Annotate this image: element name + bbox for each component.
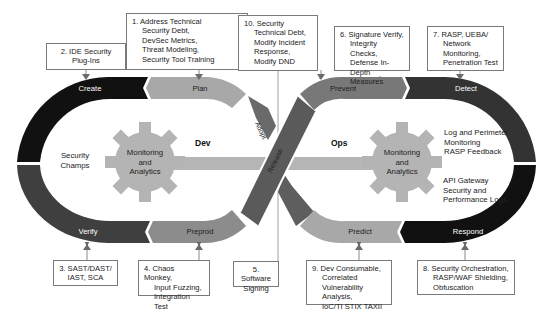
callout-6-line: Integrity Checks, (340, 39, 404, 58)
callout-10-heading: 10. Security (244, 19, 312, 28)
gear-right-line: Monitoring (374, 148, 430, 158)
api-gateway-line: API Gateway (443, 176, 543, 186)
stage-respond-label: Respond (446, 227, 490, 236)
gear-left-line: Analytics (117, 167, 173, 177)
callout-10: 10. Security Technical Debt, Modify Inci… (238, 15, 318, 71)
callout-5: 5. Software Signing (233, 261, 279, 287)
callout-8-line: RASP/WAF Shielding, (423, 273, 509, 282)
callout-1-line: Threat Modeling, (132, 45, 242, 54)
log-perimeter-line: Monitoring (444, 138, 544, 148)
callout-1-line: Security Tool Training (132, 55, 242, 64)
api-gateway-line: Security and (443, 186, 543, 196)
callout-9-heading: 9. Dev Consumable, (312, 264, 386, 273)
gear-left-line: Monitoring (117, 148, 173, 158)
dev-loop-label: Dev (195, 138, 211, 148)
callout-3: 3. SAST/DAST/ IAST, SCA (53, 260, 118, 286)
gear-right-text: Monitoring and Analytics (374, 148, 430, 177)
callout-7: 7. RASP, UEBA/ Network Monitoring, Penet… (427, 26, 504, 71)
callout-4-heading: 4. Chaos Monkey, (144, 264, 204, 283)
stage-preprod-label: Preprod (180, 227, 220, 236)
callout-1: 1. Address Technical Security Debt, DevS… (126, 13, 248, 70)
callout-2-line: Plug-Ins (52, 56, 120, 65)
stage-plan-label: Plan (180, 84, 220, 93)
gear-right-line: and (374, 158, 430, 168)
callout-8-line: Obfuscation (423, 283, 509, 292)
callout-8-heading: 8. Security Orchestration, (423, 264, 509, 273)
log-perimeter-text: Log and Perimeter Monitoring RASP Feedba… (444, 128, 544, 157)
stage-predict-label: Predict (335, 227, 385, 236)
callout-2: 2. IDE Security Plug-Ins (46, 43, 126, 70)
callout-6-heading: 6. Signature Verify, (340, 30, 404, 39)
stage-verify-label: Verify (68, 227, 108, 236)
callout-1-line: Security Debt, (132, 26, 242, 35)
callout-4: 4. Chaos Monkey, Input Fuzzing, Integrat… (138, 260, 210, 296)
callout-9-line: Vulnerability Analysis, (312, 283, 386, 302)
api-gateway-line: Performance Logs (443, 195, 543, 205)
callout-9-line: Correlated (312, 273, 386, 282)
callout-7-line: Network (433, 39, 498, 48)
ops-loop-label: Ops (331, 138, 348, 148)
callout-3-heading: 3. SAST/DAST/ (59, 264, 112, 273)
api-gateway-text: API Gateway Security and Performance Log… (443, 176, 543, 205)
stage-detect-label: Detect (444, 84, 488, 93)
callout-5-heading: 5. Software (239, 265, 273, 284)
stage-prevent-label: Prevent (318, 84, 368, 93)
callout-10-line: Modify DND (244, 57, 312, 66)
gear-left-line: and (117, 158, 173, 168)
callout-7-heading: 7. RASP, UEBA/ (433, 30, 498, 39)
callout-10-line: Technical Debt, (244, 28, 312, 37)
callout-1-line: DevSec Metrics, (132, 36, 242, 45)
gear-right-line: Analytics (374, 167, 430, 177)
callout-7-line: Penetration Test (433, 58, 498, 67)
callout-2-heading: 2. IDE Security (52, 47, 120, 56)
callout-10-line: Response, (244, 47, 312, 56)
callout-1-heading: 1. Address Technical (132, 17, 242, 26)
callout-4-line: Integration Test (144, 292, 204, 311)
log-perimeter-line: Log and Perimeter (444, 128, 544, 138)
callout-8: 8. Security Orchestration, RASP/WAF Shie… (417, 260, 515, 295)
security-champs-line: Security (50, 151, 100, 161)
callout-7-line: Monitoring, (433, 49, 498, 58)
log-perimeter-line: RASP Feedback (444, 147, 544, 157)
security-champs-line: Champs (50, 161, 100, 171)
callout-10-line: Modify Incident (244, 38, 312, 47)
callout-6-line: Defense In- (340, 58, 404, 67)
callout-9: 9. Dev Consumable, Correlated Vulnerabil… (306, 260, 392, 305)
callout-9-line: IoC/TI STIX TAXII (312, 302, 386, 311)
callout-6: 6. Signature Verify, Integrity Checks, D… (334, 26, 410, 71)
stage-create-label: Create (70, 84, 110, 93)
callout-3-line: IAST, SCA (59, 273, 112, 282)
callout-5-line: Signing (239, 284, 273, 293)
gear-left-text: Monitoring and Analytics (117, 148, 173, 177)
security-champs-text: Security Champs (50, 151, 100, 170)
callout-4-line: Input Fuzzing, (144, 283, 204, 292)
